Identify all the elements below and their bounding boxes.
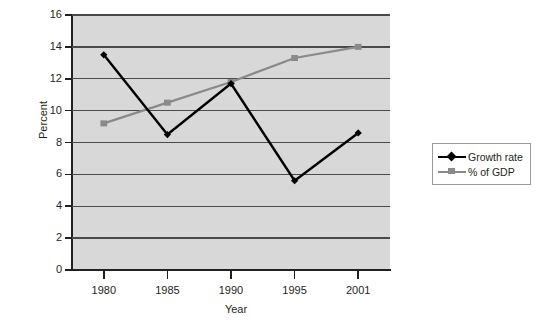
x-tick-label: 2001 [333, 284, 383, 296]
gridline [72, 142, 390, 143]
y-tick-label: 4 [36, 200, 62, 211]
gridline [72, 110, 390, 111]
y-tick-mark [65, 174, 72, 176]
legend-swatch-growth-rate [438, 151, 466, 163]
y-tick-mark [65, 205, 72, 207]
gridline [72, 46, 390, 47]
gridline [72, 14, 390, 15]
x-tick-mark [167, 271, 169, 279]
square-marker-icon [448, 168, 455, 174]
legend-item-pct-of-gdp: % of GDP [438, 164, 524, 179]
y-tick-mark [65, 46, 72, 48]
y-tick-mark [65, 110, 72, 112]
x-tick-mark [230, 271, 232, 279]
gridline [72, 206, 390, 207]
y-tick-mark [65, 142, 72, 144]
y-tick-label: 12 [36, 73, 62, 84]
y-tick-mark [65, 269, 72, 271]
x-tick-label: 1995 [270, 284, 320, 296]
x-tick-mark [294, 271, 296, 279]
gridline [72, 174, 390, 175]
x-tick-label: 1990 [206, 284, 256, 296]
y-tick-label: 2 [36, 232, 62, 243]
legend-label-pct-of-gdp: % of GDP [466, 166, 515, 178]
x-tick-mark [103, 271, 105, 279]
y-axis-title: Percent [37, 85, 49, 155]
y-tick-mark [65, 14, 72, 16]
gridline [72, 237, 390, 238]
legend-item-growth-rate: Growth rate [438, 149, 524, 164]
y-tick-label: 14 [36, 41, 62, 52]
x-tick-label: 1980 [79, 284, 129, 296]
line-chart: 0246810121416 19801985199019952001 Perce… [0, 0, 538, 328]
legend-label-growth-rate: Growth rate [466, 151, 523, 163]
y-tick-label: 16 [36, 9, 62, 20]
diamond-marker-icon [447, 151, 457, 161]
legend-swatch-pct-of-gdp [438, 166, 466, 178]
y-tick-mark [65, 237, 72, 239]
y-tick-mark [65, 78, 72, 80]
x-tick-label: 1985 [142, 284, 192, 296]
chart-legend: Growth rate % of GDP [432, 143, 531, 185]
x-axis-title: Year [206, 303, 266, 315]
y-tick-label: 0 [36, 264, 62, 275]
gridline [72, 78, 390, 79]
x-tick-mark [357, 271, 359, 279]
y-tick-label: 6 [36, 168, 62, 179]
